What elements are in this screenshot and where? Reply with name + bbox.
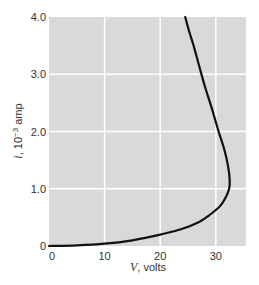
x-axis-label: V, volts — [130, 260, 167, 274]
x-tick-label: 10 — [98, 250, 110, 262]
y-tick-label: 2.0 — [31, 126, 46, 138]
x-tick-label: 30 — [210, 250, 222, 262]
y-tick-label: 4.0 — [31, 11, 46, 23]
y-tick-label: 3.0 — [31, 68, 46, 80]
y-tick-labels: 01.02.03.04.0 — [31, 11, 46, 252]
x-tick-label: 0 — [49, 250, 55, 262]
y-axis-label: i, 10−3 amp — [11, 103, 25, 158]
y-tick-label: 1.0 — [31, 183, 46, 195]
chart: 01.02.03.04.0 0102030 V, volts i, 10−3 a… — [0, 0, 259, 285]
y-tick-label: 0 — [40, 240, 46, 252]
